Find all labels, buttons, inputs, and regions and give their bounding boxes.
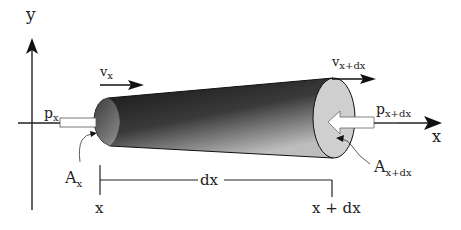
y-axis: y bbox=[25, 4, 38, 210]
x-position-label: x bbox=[95, 199, 104, 217]
dx-dimension: dx x x + dx bbox=[95, 165, 361, 217]
x-plus-dx-position-label: x + dx bbox=[312, 199, 361, 217]
area-left-label: Ax bbox=[64, 168, 83, 189]
area-left-callout: Ax bbox=[64, 131, 97, 189]
pressure-right-label: px+dx bbox=[376, 101, 411, 119]
area-right-callout: Ax+dx bbox=[336, 135, 412, 178]
velocity-left-label: vx bbox=[99, 64, 113, 81]
control-volume-diagram: y x px px+dx vx bbox=[0, 0, 461, 230]
y-axis-label: y bbox=[25, 4, 36, 24]
area-right-label: Ax+dx bbox=[373, 157, 412, 178]
velocity-arrow-right: vx+dx bbox=[331, 54, 376, 84]
velocity-right-label: vx+dx bbox=[331, 54, 366, 71]
pressure-left-label: px bbox=[44, 105, 59, 123]
velocity-arrow-left: vx bbox=[99, 64, 144, 90]
dx-label: dx bbox=[200, 171, 219, 189]
x-axis-label: x bbox=[432, 127, 441, 146]
control-volume-cylinder bbox=[94, 78, 355, 158]
